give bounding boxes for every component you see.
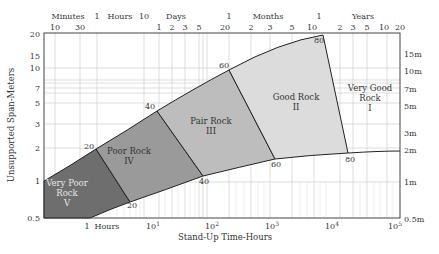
- svg-text:15m: 15m: [404, 50, 422, 59]
- svg-text:1m: 1m: [404, 178, 417, 187]
- svg-text:80: 80: [314, 36, 324, 45]
- svg-text:Hours: Hours: [95, 222, 120, 231]
- svg-text:15: 15: [30, 52, 40, 61]
- svg-text:2: 2: [248, 23, 253, 32]
- label-poor-rock: Poor Rock: [107, 146, 152, 156]
- label-pair-rock: Pair Rock: [190, 116, 232, 126]
- svg-text:103: 103: [265, 220, 279, 231]
- svg-text:60: 60: [219, 61, 229, 70]
- svg-text:1: 1: [316, 12, 321, 21]
- svg-text:III: III: [206, 126, 216, 136]
- svg-text:105: 105: [388, 220, 402, 231]
- svg-text:IV: IV: [124, 156, 134, 166]
- svg-text:5: 5: [196, 23, 201, 32]
- svg-text:1: 1: [84, 222, 89, 231]
- svg-text:2: 2: [169, 23, 174, 32]
- rock-stand-up-time-chart: Very Poor Rock V Poor Rock IV Pair Rock …: [0, 0, 439, 254]
- right-y-axis: 15m 10m 7m 5m 3m 2m 1m 0.5m: [404, 50, 425, 224]
- svg-text:Rock: Rock: [359, 93, 381, 103]
- svg-text:104: 104: [325, 220, 339, 231]
- svg-text:5: 5: [364, 23, 369, 32]
- svg-text:Minutes: Minutes: [51, 12, 84, 21]
- svg-text:10: 10: [30, 64, 40, 73]
- svg-text:40: 40: [145, 102, 155, 111]
- svg-text:Years: Years: [351, 12, 374, 21]
- svg-text:10: 10: [139, 12, 149, 21]
- svg-text:3: 3: [35, 120, 40, 129]
- svg-text:40: 40: [199, 177, 209, 186]
- label-very-good-rock: Very Good: [347, 83, 393, 93]
- svg-text:Rock: Rock: [56, 188, 78, 198]
- left-y-axis: 20 15 10 7 5 3 2 1 0.5: [27, 30, 40, 223]
- svg-text:30: 30: [75, 23, 85, 32]
- svg-text:20: 20: [395, 23, 405, 32]
- svg-text:5m: 5m: [404, 102, 417, 111]
- svg-text:10m: 10m: [404, 67, 422, 76]
- svg-text:Days: Days: [166, 12, 186, 21]
- svg-text:Hours: Hours: [108, 12, 133, 21]
- svg-text:10: 10: [307, 23, 317, 32]
- svg-text:3: 3: [350, 23, 355, 32]
- svg-text:7: 7: [35, 84, 40, 93]
- svg-text:2m: 2m: [404, 146, 417, 155]
- svg-text:V: V: [63, 198, 71, 208]
- svg-text:1: 1: [94, 12, 99, 21]
- svg-text:20: 20: [30, 30, 40, 39]
- svg-text:20: 20: [220, 23, 230, 32]
- svg-text:101: 101: [146, 220, 160, 231]
- svg-text:1: 1: [35, 177, 40, 186]
- label-good-rock: Good Rock: [273, 92, 320, 102]
- svg-text:2: 2: [337, 23, 342, 32]
- svg-text:7m: 7m: [404, 85, 417, 94]
- bottom-x-axis: 1 Hours 101 102 103 104 105: [84, 220, 402, 231]
- svg-text:5: 5: [35, 99, 40, 108]
- svg-text:Months: Months: [253, 12, 284, 21]
- svg-text:2: 2: [35, 144, 40, 153]
- label-very-poor-rock: Very Poor: [45, 178, 89, 188]
- svg-text:II: II: [293, 102, 300, 112]
- svg-text:102: 102: [205, 220, 219, 231]
- svg-text:0.5: 0.5: [27, 214, 40, 223]
- svg-text:0.5m: 0.5m: [404, 215, 425, 224]
- x-axis-label: Stand-Up Time-Hours: [178, 232, 272, 242]
- svg-text:10: 10: [379, 23, 389, 32]
- svg-text:I: I: [368, 103, 371, 113]
- y-axis-label: Unsupported Span-Meters: [6, 68, 16, 182]
- svg-text:1: 1: [226, 12, 231, 21]
- svg-text:20: 20: [84, 142, 94, 151]
- svg-text:60: 60: [271, 160, 281, 169]
- svg-text:80: 80: [345, 155, 355, 164]
- svg-text:1: 1: [156, 23, 161, 32]
- svg-text:3: 3: [182, 23, 187, 32]
- svg-text:3m: 3m: [404, 129, 417, 138]
- svg-text:20: 20: [127, 201, 137, 210]
- svg-text:3: 3: [267, 23, 272, 32]
- svg-text:10: 10: [50, 23, 60, 32]
- svg-text:5: 5: [289, 23, 294, 32]
- top-x-axis: Minutes 1 Hours 10 Days 1 Months 1 Years…: [50, 12, 405, 32]
